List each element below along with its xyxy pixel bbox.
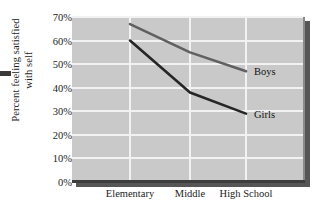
y-axis-title-line-2: with self [23,0,36,145]
series-label-girls: Girls [254,109,275,120]
y-axis-tick-label: 20% [53,129,72,140]
y-axis-tick-label: 40% [53,82,72,93]
x-axis-tick-labels: ElementaryMiddleHigh School [0,188,323,206]
plot-right-shadow [305,21,310,186]
chart-figure: Percent feeling satisfied with self 0%10… [0,0,323,208]
y-axis-tick-label: 0% [58,177,72,188]
x-axis-line [72,180,305,183]
series-line-boys [130,24,246,71]
y-axis-tick-label: 60% [53,35,72,46]
y-axis-tick-label: 70% [53,12,72,23]
y-axis-title: Percent feeling satisfied with self [10,0,38,145]
series-label-boys: Boys [254,66,276,77]
y-axis-tick-labels: 0%10%20%30%40%50%60%70% [40,0,72,208]
y-axis-title-line-1: Percent feeling satisfied [10,0,23,145]
x-axis-tick-label: Middle [175,188,205,199]
plot-area [72,17,305,182]
series-lines [72,17,305,182]
x-axis-tick-label: Elementary [106,188,154,199]
y-axis-tick-label: 10% [53,153,72,164]
y-axis-tick-label: 50% [53,59,72,70]
x-axis-tick-label: High School [220,188,273,199]
y-axis-tick-label: 30% [53,106,72,117]
